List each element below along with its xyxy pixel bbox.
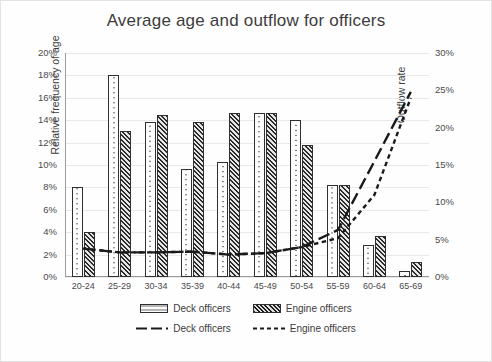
- legend-row-lines: Deck officers Engine officers: [1, 323, 491, 334]
- x-axis-tick-label: 40-44: [211, 281, 247, 297]
- x-axis-ticks: 20-2425-2930-3435-3940-4445-4950-5455-59…: [65, 281, 429, 297]
- legend-swatch-engine-line-icon: [253, 324, 285, 333]
- line-deck[interactable]: [83, 92, 411, 255]
- x-axis-tick-label: 25-29: [101, 281, 137, 297]
- line-engine[interactable]: [83, 98, 411, 255]
- legend-swatch-deck-bar-icon: [140, 304, 168, 313]
- legend-item-line-deck[interactable]: Deck officers: [136, 323, 231, 334]
- y-axis-left-tick-label: 20%: [23, 47, 57, 58]
- x-axis-tick-label: 55-59: [320, 281, 356, 297]
- y-axis-left-tick-label: 10%: [23, 159, 57, 170]
- y-axis-left-tick-label: 4%: [23, 226, 57, 237]
- y-axis-left-tick-label: 2%: [23, 249, 57, 260]
- gridline: [65, 277, 429, 278]
- x-axis-tick-label: 65-69: [393, 281, 429, 297]
- y-axis-left-tick-label: 16%: [23, 92, 57, 103]
- x-axis-tick-label: 35-39: [174, 281, 210, 297]
- legend-swatch-engine-bar-icon: [253, 304, 281, 313]
- y-axis-right-tick-label: 10%: [435, 196, 469, 207]
- x-axis-tick-label: 45-49: [247, 281, 283, 297]
- y-axis-right-tick-label: 15%: [435, 159, 469, 170]
- legend-label-engine-line: Engine officers: [290, 323, 356, 334]
- chart-title: Average age and outflow for officers: [1, 11, 491, 31]
- legend-item-line-engine[interactable]: Engine officers: [253, 323, 356, 334]
- legend-label-engine-bar: Engine officers: [286, 303, 352, 314]
- x-axis-tick-label: 50-54: [283, 281, 319, 297]
- legend: Deck officers Engine officers Deck offic…: [1, 303, 491, 343]
- y-axis-left-tick-label: 18%: [23, 69, 57, 80]
- y-axis-left-tick-label: 0%: [23, 271, 57, 282]
- y-axis-right-tick-label: 0%: [435, 271, 469, 282]
- legend-item-bar-deck[interactable]: Deck officers: [140, 303, 231, 314]
- legend-item-bar-engine[interactable]: Engine officers: [253, 303, 352, 314]
- plot-area: [65, 53, 429, 277]
- y-axis-left-tick-label: 6%: [23, 204, 57, 215]
- y-axis-left-tick-label: 8%: [23, 181, 57, 192]
- y-axis-right-tick-label: 30%: [435, 47, 469, 58]
- chart-card: Average age and outflow for officers Rel…: [0, 0, 492, 362]
- legend-label-deck-line: Deck officers: [173, 323, 231, 334]
- legend-row-bars: Deck officers Engine officers: [1, 303, 491, 314]
- x-axis-tick-label: 60-64: [356, 281, 392, 297]
- y-axis-left-tick-label: 12%: [23, 137, 57, 148]
- y-axis-right-tick-label: 5%: [435, 234, 469, 245]
- y-axis-left-tick-label: 14%: [23, 114, 57, 125]
- line-series-layer: [65, 53, 429, 277]
- x-axis-tick-label: 20-24: [65, 281, 101, 297]
- legend-swatch-deck-line-icon: [136, 324, 168, 333]
- y-axis-right-tick-label: 25%: [435, 84, 469, 95]
- y-axis-right-tick-label: 20%: [435, 122, 469, 133]
- legend-label-deck-bar: Deck officers: [173, 303, 231, 314]
- x-axis-tick-label: 30-34: [138, 281, 174, 297]
